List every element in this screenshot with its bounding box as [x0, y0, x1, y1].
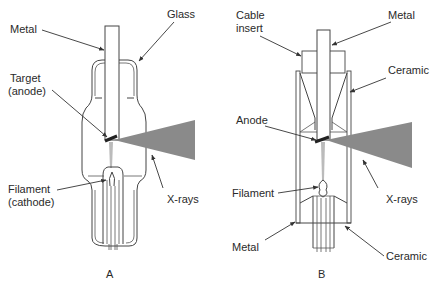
metal-anode-rod-a: [105, 26, 119, 140]
filament-b: [319, 180, 327, 197]
label-glass-a: Glass: [167, 8, 196, 20]
caption-a: A: [106, 268, 114, 280]
label-anode-b: Anode: [236, 114, 268, 126]
diagram-a: Metal Glass Target (anode) Filament (cat…: [8, 8, 199, 280]
label-filament-b: Filament: [232, 187, 274, 199]
label-target-line1-a: Target: [10, 72, 41, 84]
xray-tube-diagram-figure: Metal Glass Target (anode) Filament (cat…: [0, 0, 437, 291]
label-ceramic-bottom-b: Ceramic: [386, 250, 427, 262]
electron-beam-a: [109, 142, 113, 168]
label-metal-bottom-b: Metal: [232, 241, 259, 253]
electron-beam-b: [321, 142, 325, 180]
outer-wall-left-b: [296, 71, 300, 223]
label-xrays-b: X-rays: [386, 193, 418, 205]
diagram-canvas: Metal Glass Target (anode) Filament (cat…: [0, 0, 437, 291]
label-filament-line1-a: Filament: [8, 183, 50, 195]
diagram-b: Cable insert Metal Ceramic Anode Filamen…: [232, 9, 429, 280]
cathode-assembly-a: [103, 167, 123, 244]
label-target-line2-a: (anode): [8, 85, 46, 97]
label-filament-line2-a: (cathode): [8, 196, 54, 208]
label-cable-line2-b: insert: [236, 22, 263, 34]
label-xrays-a: X-rays: [167, 193, 199, 205]
label-metal-a: Metal: [10, 23, 37, 35]
xray-beam-b: [326, 122, 412, 168]
metal-anode-rod-b: [317, 30, 330, 140]
label-ceramic-top-b: Ceramic: [388, 64, 429, 76]
xray-beam-a: [114, 120, 195, 160]
label-cable-line1-b: Cable: [236, 9, 265, 21]
caption-b: B: [318, 268, 325, 280]
label-metal-top-b: Metal: [388, 9, 415, 21]
